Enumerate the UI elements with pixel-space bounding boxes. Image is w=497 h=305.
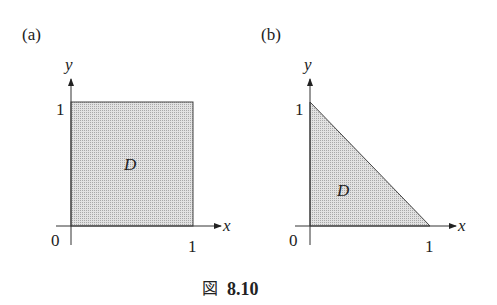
- figure-canvas: (a) y x 1 0 1 D (b) y x 1 0 1 D 図 8.10: [0, 0, 497, 305]
- figure-caption: 図 8.10: [202, 279, 259, 299]
- origin-label: 0: [289, 231, 298, 250]
- caption-number: 8.10: [227, 279, 259, 299]
- panel-a: (a) y x 1 0 1 D: [22, 25, 231, 256]
- caption-prefix: 図: [202, 280, 218, 297]
- x-tick-label: 1: [188, 237, 197, 256]
- origin-label: 0: [51, 231, 60, 250]
- region-label: D: [336, 181, 350, 200]
- panel-a-label: (a): [22, 25, 41, 44]
- y-axis-label: y: [63, 55, 73, 74]
- panel-b: (b) y x 1 0 1 D: [261, 25, 466, 256]
- x-axis-label: x: [222, 216, 231, 235]
- region-d-triangle: [310, 102, 430, 226]
- y-tick-label: 1: [295, 100, 304, 119]
- y-tick-label: 1: [56, 100, 65, 119]
- x-tick-label: 1: [425, 237, 434, 256]
- y-axis-label: y: [302, 55, 312, 74]
- x-axis-label: x: [457, 216, 466, 235]
- panel-b-label: (b): [261, 25, 281, 44]
- region-label: D: [123, 155, 137, 174]
